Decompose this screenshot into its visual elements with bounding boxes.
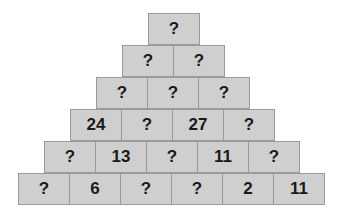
pyramid-row-2: ? ? <box>122 45 224 77</box>
pyramid-cell[interactable]: ? <box>173 45 225 77</box>
pyramid-cell: 6 <box>69 173 121 205</box>
pyramid-row-6: ? 6 ? ? 2 11 <box>18 173 324 205</box>
pyramid-cell[interactable]: ? <box>248 141 300 173</box>
pyramid-cell[interactable]: ? <box>122 45 174 77</box>
pyramid-cell[interactable]: ? <box>171 173 223 205</box>
pyramid-cell[interactable]: ? <box>120 173 172 205</box>
pyramid-cell[interactable]: ? <box>198 77 250 109</box>
pyramid-row-5: ? 13 ? 11 ? <box>44 141 299 173</box>
number-pyramid: ? ? ? ? ? ? 24 ? 27 ? ? 13 ? 11 ? ? 6 ? … <box>0 0 350 221</box>
pyramid-row-4: 24 ? 27 ? <box>70 109 274 141</box>
pyramid-cell[interactable]: ? <box>44 141 96 173</box>
pyramid-cell[interactable]: ? <box>223 109 275 141</box>
pyramid-row-3: ? ? ? <box>96 77 249 109</box>
pyramid-cell: 13 <box>95 141 147 173</box>
pyramid-cell: 11 <box>273 173 325 205</box>
pyramid-cell[interactable]: ? <box>18 173 70 205</box>
pyramid-cell[interactable]: ? <box>147 77 199 109</box>
pyramid-cell[interactable]: ? <box>148 13 200 45</box>
pyramid-cell: 24 <box>70 109 122 141</box>
pyramid-cell[interactable]: ? <box>121 109 173 141</box>
pyramid-row-1: ? <box>148 13 199 45</box>
pyramid-cell[interactable]: ? <box>146 141 198 173</box>
pyramid-cell[interactable]: ? <box>96 77 148 109</box>
pyramid-cell: 2 <box>222 173 274 205</box>
pyramid-cell: 11 <box>197 141 249 173</box>
pyramid-cell: 27 <box>172 109 224 141</box>
